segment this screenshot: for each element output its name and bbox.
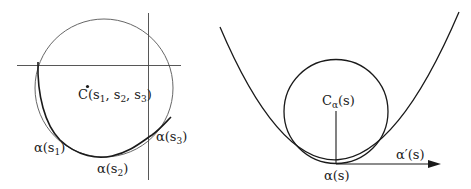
center-label: C(s1, s2, s3) [78,87,152,104]
tangent-arrowhead-icon [428,160,441,168]
left-figure: C(s1, s2, s3) α(s1) α(s2) α(s3) [17,13,187,180]
right-figure: Cα(s) α(s) α′(s) [220,12,459,183]
point-label: α(s) [324,168,350,183]
diagram-canvas: C(s1, s2, s3) α(s1) α(s2) α(s3) Cα(s) α(… [0,0,471,189]
point-label-s3: α(s3) [156,129,187,146]
circle-center-label: Cα(s) [322,93,355,110]
parabola-curve [220,12,459,160]
curve-alpha [38,62,171,157]
tangent-label: α′(s) [396,147,425,162]
point-label-s1: α(s1) [34,140,65,157]
point-label-s2: α(s2) [97,161,128,178]
